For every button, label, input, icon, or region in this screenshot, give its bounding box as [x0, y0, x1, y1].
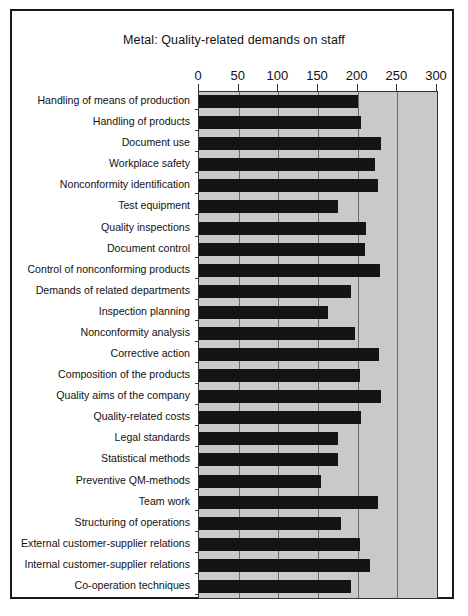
bar [199, 158, 375, 171]
y-axis-category-label: External customer-supplier relations [12, 534, 194, 555]
bar-row [199, 429, 437, 450]
bar [199, 200, 338, 213]
y-axis-category-label: Team work [12, 492, 194, 513]
x-axis-tick-label: 0 [194, 68, 201, 83]
y-axis-tick-mark [195, 531, 199, 532]
bar-row [199, 535, 437, 556]
bar-row [199, 92, 437, 113]
bar-row [199, 577, 437, 598]
bar [199, 348, 379, 361]
bar-row [199, 324, 437, 345]
y-axis-tick-mark [195, 573, 199, 574]
bar [199, 517, 341, 530]
y-axis-category-label: Quality aims of the company [12, 386, 194, 407]
y-axis-category-label: Document control [12, 239, 194, 260]
y-axis-category-label: Corrective action [12, 344, 194, 365]
bar-row [199, 155, 437, 176]
y-axis-category-label: Inspection planning [12, 302, 194, 323]
bar-row [199, 556, 437, 577]
y-axis-tick-mark [195, 299, 199, 300]
y-axis-category-label: Control of nonconforming products [12, 260, 194, 281]
y-axis-category-label: Demands of related departments [12, 281, 194, 302]
bar [199, 306, 328, 319]
y-axis-tick-mark [195, 341, 199, 342]
x-axis-tick-label: 100 [266, 68, 288, 83]
y-axis-tick-mark [195, 362, 199, 363]
y-axis-category-label: Nonconformity analysis [12, 323, 194, 344]
bar [199, 411, 361, 424]
y-axis-tick-mark [195, 109, 199, 110]
bar [199, 95, 358, 108]
bar-row [199, 219, 437, 240]
y-axis-tick-mark [195, 320, 199, 321]
bar [199, 390, 381, 403]
bar [199, 475, 321, 488]
x-axis-tick-label: 50 [230, 68, 244, 83]
y-axis-tick-mark [195, 467, 199, 468]
y-axis-category-label: Structuring of operations [12, 513, 194, 534]
page-title: Metal: Quality-related demands on staff [12, 33, 456, 47]
y-axis-tick-mark [195, 172, 199, 173]
y-axis-category-label: Statistical methods [12, 449, 194, 470]
y-axis-tick-mark [195, 257, 199, 258]
y-axis-tick-mark [195, 489, 199, 490]
y-axis-tick-mark [195, 130, 199, 131]
bar [199, 285, 351, 298]
y-axis-tick-mark [195, 446, 199, 447]
bar [199, 538, 360, 551]
x-axis-tick-label: 200 [346, 68, 368, 83]
bar [199, 116, 361, 129]
y-axis-tick-mark [195, 383, 199, 384]
bar [199, 369, 360, 382]
y-axis-category-label: Handling of products [12, 112, 194, 133]
bar-row [199, 408, 437, 429]
bar [199, 580, 351, 593]
bar-row [199, 113, 437, 134]
bar [199, 179, 378, 192]
chart-figure: Metal: Quality-related demands on staff … [10, 9, 454, 599]
y-axis-category-label: Composition of the products [12, 365, 194, 386]
y-axis-category-label: Co-operation techniques [12, 576, 194, 597]
y-axis-category-label: Document use [12, 133, 194, 154]
bar-row [199, 450, 437, 471]
bar [199, 264, 380, 277]
bar-row [199, 387, 437, 408]
bar [199, 496, 378, 509]
bar-row [199, 282, 437, 303]
y-axis-tick-mark [195, 278, 199, 279]
bar [199, 137, 381, 150]
bar-row [199, 514, 437, 535]
bar-row [199, 345, 437, 366]
y-axis-category-label: Legal standards [12, 428, 194, 449]
bar-row [199, 261, 437, 282]
y-axis-tick-mark [195, 510, 199, 511]
x-axis-tick-label: 300 [425, 68, 447, 83]
bar [199, 222, 366, 235]
bar [199, 559, 370, 572]
x-axis-tick-label: 150 [306, 68, 328, 83]
y-axis-tick-mark [195, 594, 199, 595]
y-axis-category-label: Workplace safety [12, 154, 194, 175]
bar [199, 327, 355, 340]
bar-row [199, 134, 437, 155]
bar-row [199, 197, 437, 218]
y-axis-category-label: Test equipment [12, 196, 194, 217]
bar-row [199, 366, 437, 387]
y-axis-category-labels: Handling of means of productionHandling … [12, 91, 194, 597]
y-axis-tick-mark [195, 236, 199, 237]
y-axis-category-label: Preventive QM-methods [12, 471, 194, 492]
y-axis-tick-mark [195, 404, 199, 405]
bar-row [199, 493, 437, 514]
bar [199, 432, 338, 445]
x-axis-tick-label: 250 [385, 68, 407, 83]
bar-row [199, 472, 437, 493]
y-axis-category-label: Internal customer-supplier relations [12, 555, 194, 576]
bar [199, 453, 338, 466]
y-axis-tick-mark [195, 193, 199, 194]
y-axis-category-label: Handling of means of production [12, 91, 194, 112]
bar-row [199, 240, 437, 261]
y-axis-category-label: Quality-related costs [12, 407, 194, 428]
bar-row [199, 303, 437, 324]
y-axis-tick-mark [195, 425, 199, 426]
y-axis-category-label: Quality inspections [12, 218, 194, 239]
